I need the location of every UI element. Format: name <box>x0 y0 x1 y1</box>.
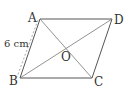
parallelogram-diagram: A D B C O 6 cm <box>0 0 129 101</box>
diagonal-bd <box>20 19 112 78</box>
center-label-o: O <box>61 50 71 64</box>
side-length-label: 6 cm <box>4 38 29 49</box>
edge-dc <box>92 19 112 78</box>
vertex-label-b: B <box>9 74 18 88</box>
vertex-label-d: D <box>114 13 124 27</box>
vertex-label-a: A <box>27 11 37 25</box>
vertex-label-c: C <box>94 75 103 89</box>
